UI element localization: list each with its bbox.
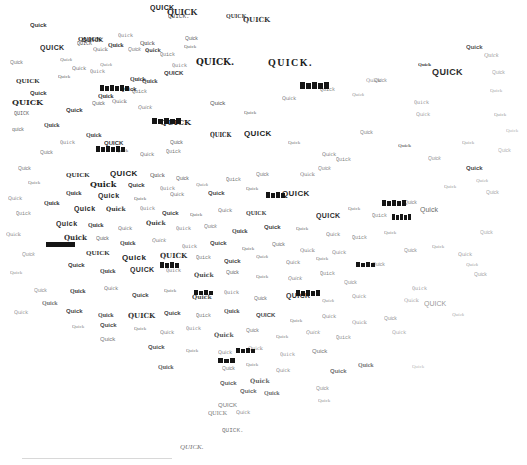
dingbat-bar [271,193,275,198]
specimen-word: Quick [122,254,146,262]
dingbat-bar [246,348,250,353]
specimen-word: Quick [16,212,31,217]
specimen-word: Quick [208,190,225,196]
dingbat-bar [230,358,235,363]
dingbat-glyph-run [392,214,416,220]
specimen-word: Quick [72,324,84,329]
specimen-word: Quick [300,172,315,177]
dingbat-bar [281,193,285,198]
dingbat-bar [387,201,391,206]
specimen-word: Quick [226,270,239,275]
dingbat-bar [402,200,406,206]
specimen-word: Quick [166,268,181,273]
specimen-word: Quick [66,107,83,113]
dingbat-glyph-run [218,358,236,363]
specimen-word: Quick [498,148,511,153]
typeface-scatter-canvas: QuickQUICKQUICK.QUICKQuickQUICKQUICKQUIC… [0,0,527,465]
specimen-word: Quick [56,220,77,227]
specimen-word: Quick [480,230,493,235]
specimen-word: QUICK [16,78,40,85]
specimen-word: QUICK [128,312,155,319]
dingbat-bar [382,200,386,206]
specimen-word: QUICK. [268,58,313,68]
specimen-word: QUICK [256,312,275,318]
specimen-word: Quick [432,244,444,249]
specimen-word: Quick [166,150,181,155]
specimen-word: Quick [232,228,248,234]
specimen-word: Quick [150,172,165,178]
specimen-word: Quick [146,220,166,226]
specimen-word: QUICK. [196,58,234,67]
specimen-word: Quick [10,60,23,65]
dingbat-bar [116,146,120,152]
dingbat-glyph-run [236,348,256,353]
specimen-word: Quick [186,326,201,331]
specimen-word: QUICK [244,130,272,138]
specimen-word: Quick [286,260,300,265]
specimen-word: Quick [88,222,104,228]
specimen-word: QUICK. [180,444,204,451]
specimen-word: Quick [68,262,85,268]
dingbat-glyph-run [96,146,126,152]
specimen-word: Quick [474,272,487,277]
specimen-word: Quick [322,314,336,319]
specimen-word: Quick [132,292,149,298]
specimen-word: Quick [98,192,119,199]
specimen-word: Quick [320,272,335,277]
specimen-word: Quick [372,214,387,219]
specimen-word: Quick [130,76,146,82]
specimen-word: QUICK [82,37,103,43]
dingbat-bar [236,348,240,353]
dingbat-bar [125,86,129,91]
specimen-word: Quick [120,240,136,246]
specimen-word: Quick [190,212,202,217]
specimen-word: Quick [466,44,483,50]
specimen-word: Quick [8,196,22,201]
dingbat-bar [111,147,115,152]
specimen-word: Quick [384,230,396,235]
dingbat-bar [306,83,311,89]
specimen-word: Quick [236,410,250,415]
dingbat-bar [306,290,310,296]
dingbat-bar [316,290,320,296]
specimen-word: Quick [276,334,288,339]
specimen-word: Quick [204,224,217,229]
specimen-word: Quick [296,226,308,231]
specimen-word: Quick [428,156,441,161]
dingbat-bar [324,82,329,89]
dingbat-glyph-run [382,200,408,206]
specimen-word: Quick [22,252,35,257]
specimen-word: Quick [412,286,427,291]
dingbat-bar [361,263,365,267]
specimen-word: Quick [108,42,124,48]
dingbat-bar [218,358,223,363]
specimen-word: Quick [218,350,232,355]
specimen-word: Quick [74,205,95,212]
specimen-word: QUICK [316,212,341,219]
specimen-word: Quick [242,246,254,251]
specimen-word: Quick [492,70,505,75]
dingbat-bar [101,147,105,152]
dingbat-bar [366,262,370,267]
specimen-word: Quick [44,200,60,206]
specimen-word: Quick [40,150,53,155]
specimen-word: Quick [486,190,499,195]
dingbat-glyph-run [356,262,378,267]
dingbat-bar [115,86,119,91]
dingbat-bar [371,263,375,267]
specimen-word: Quick [506,128,518,133]
specimen-word: Quick [352,294,366,299]
dingbat-bar [105,86,109,91]
specimen-word: Quick [322,298,334,303]
dingbat-bar [164,118,169,124]
specimen-word: Quick [162,210,179,216]
specimen-word: Quick [458,252,472,257]
specimen-word: Quick [316,386,329,391]
specimen-word: QUICK. [226,13,248,19]
specimen-word: Quick [484,52,498,58]
dingbat-bar [152,118,157,124]
specimen-word: Quick [288,140,300,145]
specimen-word: Quick [288,276,302,281]
specimen-word: Quick [318,166,331,171]
specimen-word: Quick [58,74,70,79]
